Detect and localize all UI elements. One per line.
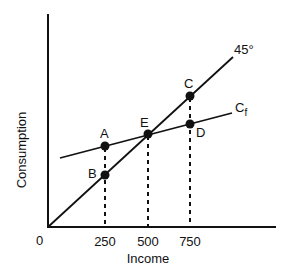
point-b — [101, 171, 110, 180]
x-tick-500: 500 — [137, 234, 159, 249]
point-c-label: C — [184, 76, 193, 91]
x-axis-title: Income — [127, 251, 170, 266]
x-tick-750: 750 — [179, 234, 201, 249]
x-tick-250: 250 — [94, 234, 116, 249]
forty-five-degree-line — [48, 57, 233, 227]
point-c — [186, 92, 195, 101]
point-d-label: D — [196, 125, 205, 140]
point-e — [144, 130, 153, 139]
y-axis-title: Consumption — [14, 112, 29, 189]
point-b-label: B — [88, 166, 97, 181]
point-d — [186, 120, 195, 129]
consumption-income-diagram: A B E C D 45° Cf 0 250 500 750 Income Co… — [0, 0, 290, 278]
cf-label: Cf — [235, 100, 247, 118]
origin-label: 0 — [36, 233, 43, 248]
point-a — [101, 142, 110, 151]
point-e-label: E — [140, 115, 149, 130]
forty-five-degree-label: 45° — [234, 42, 254, 57]
point-a-label: A — [100, 126, 109, 141]
cf-label-main: C — [235, 100, 244, 115]
cf-label-sub: f — [244, 107, 247, 118]
